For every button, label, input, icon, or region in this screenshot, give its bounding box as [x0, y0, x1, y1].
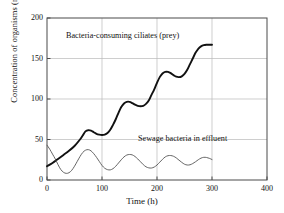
x-tick-label: 100: [87, 185, 117, 193]
y-tick-label: 100: [19, 95, 43, 103]
y-tick-label: 0: [19, 176, 43, 184]
y-tick-label: 50: [19, 136, 43, 144]
series-line-1: [47, 45, 212, 167]
y-axis-title: Concentration of organisms (mg·L−1): [6, 0, 20, 119]
y-tick-label: 150: [19, 55, 43, 63]
series-lines: [47, 45, 212, 174]
y-axis-title-text: Concentration of organisms (mg·L: [10, 0, 19, 103]
x-tick-label: 0: [32, 185, 62, 193]
bacteria-series-annotation: Sewage bacteria in effluent: [138, 134, 227, 143]
x-axis-title: Time (h): [0, 196, 284, 206]
y-tick-label: 200: [19, 14, 43, 22]
prey-series-annotation: Bacteria-consuming ciliates (prey): [66, 31, 179, 40]
x-tick-label: 300: [197, 185, 227, 193]
x-tick-label: 400: [252, 185, 282, 193]
x-tick-label: 200: [142, 185, 172, 193]
chart-figure: 050100150200 0100200300400 Concentration…: [0, 0, 284, 213]
